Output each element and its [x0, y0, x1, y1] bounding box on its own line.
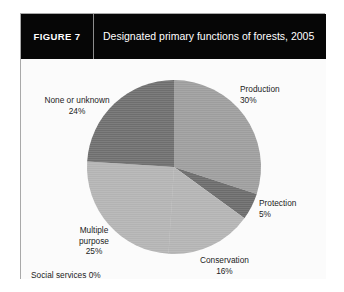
pie-label-none-or-unknown: None or unknown 24% — [27, 95, 127, 116]
pie-label-conservation-percent: 16% — [200, 266, 249, 277]
figure-title: Designated primary functions of forests,… — [103, 30, 314, 44]
pie-label-multiple-purpose-line2: purpose — [59, 236, 129, 247]
pie-label-conservation-name: Conservation — [200, 255, 249, 266]
figure-header-bar: FIGURE 7 Designated primary functions of… — [21, 14, 326, 59]
pie-label-social-services: Social services 0% — [31, 270, 101, 281]
pie-label-production: Production 30% — [240, 84, 280, 105]
pie-label-protection-percent: 5% — [259, 209, 296, 220]
figure-frame: FIGURE 7 Designated primary functions of… — [20, 13, 325, 279]
pie-label-protection-name: Protection — [259, 198, 296, 209]
pie-label-multiple-purpose-line1: Multiple — [59, 225, 129, 236]
pie-label-production-percent: 30% — [240, 95, 280, 106]
figure-number-label: FIGURE 7 — [33, 31, 80, 42]
pie-label-multiple-purpose: Multiple purpose 25% — [59, 225, 129, 257]
pie-label-protection: Protection 5% — [259, 198, 296, 219]
pie-label-production-name: Production — [240, 84, 280, 95]
pie-label-conservation: Conservation 16% — [200, 255, 249, 276]
pie-label-none-or-unknown-percent: 24% — [27, 106, 127, 117]
pie-label-none-or-unknown-name: None or unknown — [27, 95, 127, 106]
figure-title-cell: Designated primary functions of forests,… — [94, 14, 326, 59]
figure-number-cell: FIGURE 7 — [21, 14, 94, 59]
pie-chart-plot-area: Production 30% Protection 5% Conservatio… — [21, 59, 326, 279]
pie-label-multiple-purpose-percent: 25% — [59, 246, 129, 257]
